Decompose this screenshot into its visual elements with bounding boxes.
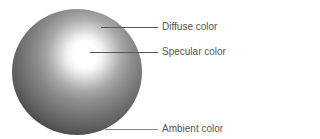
specular-color-label: Specular color [162, 46, 226, 58]
specular-leader-line [90, 52, 158, 53]
diffuse-leader-line [101, 27, 158, 28]
diffuse-color-label: Diffuse color [162, 21, 217, 33]
ambient-leader-line [105, 129, 158, 130]
ambient-color-label: Ambient color [162, 123, 223, 135]
